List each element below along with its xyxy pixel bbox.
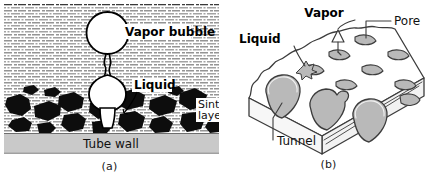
panel-a-svg: Vapor bubble Liquid Sintered layer <box>4 2 219 154</box>
caption-b: (b) <box>219 158 438 171</box>
label-pore-text: Pore <box>394 14 420 28</box>
label-vapor-bubble-text: Vapor bubble <box>125 25 215 39</box>
label-vapor-text: Vapor <box>304 6 344 20</box>
label-tunnel-text: Tunnel <box>276 134 316 148</box>
tube-wall: Tube wall <box>4 133 219 154</box>
panel-a: Vapor bubble Liquid Sintered layer <box>0 0 219 185</box>
label-vapor-bubble: Vapor bubble <box>123 24 215 39</box>
panel-b-svg: Vapor Pore Liquid Tunnel <box>219 0 438 158</box>
label-tube-wall-text: Tube wall <box>82 137 139 151</box>
vapor-bubble-large <box>87 12 129 54</box>
label-sintered-layer: Sintered layer <box>196 98 219 122</box>
caption-a: (a) <box>0 160 219 173</box>
tunnel-cavity <box>353 99 387 142</box>
label-liquid-text: Liquid <box>134 78 176 92</box>
label-sintered-line2: layer <box>198 109 219 122</box>
label-liquid-b-text: Liquid <box>239 32 281 46</box>
panel-b: Vapor Pore Liquid Tunnel (b) <box>219 0 438 185</box>
panel-a-artwork: Vapor bubble Liquid Sintered layer <box>4 2 219 154</box>
figure-container: Vapor bubble Liquid Sintered layer <box>0 0 438 185</box>
